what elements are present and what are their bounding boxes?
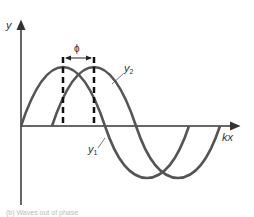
- y-axis-label: y: [6, 20, 12, 31]
- y2-label: y2: [124, 63, 133, 75]
- y2-label-subscript: 2: [130, 68, 134, 75]
- y1-label-subscript: 1: [94, 149, 98, 156]
- wave-diagram: [0, 0, 254, 217]
- curve-y2: [21, 67, 189, 178]
- x-axis-label: kx: [222, 132, 233, 143]
- y1-leader: [98, 138, 105, 148]
- curve-y1: [52, 67, 220, 178]
- figure-caption: (b) Waves out of phase: [6, 209, 78, 216]
- phase-label: ϕ: [74, 44, 80, 54]
- y1-label: y1: [88, 144, 97, 156]
